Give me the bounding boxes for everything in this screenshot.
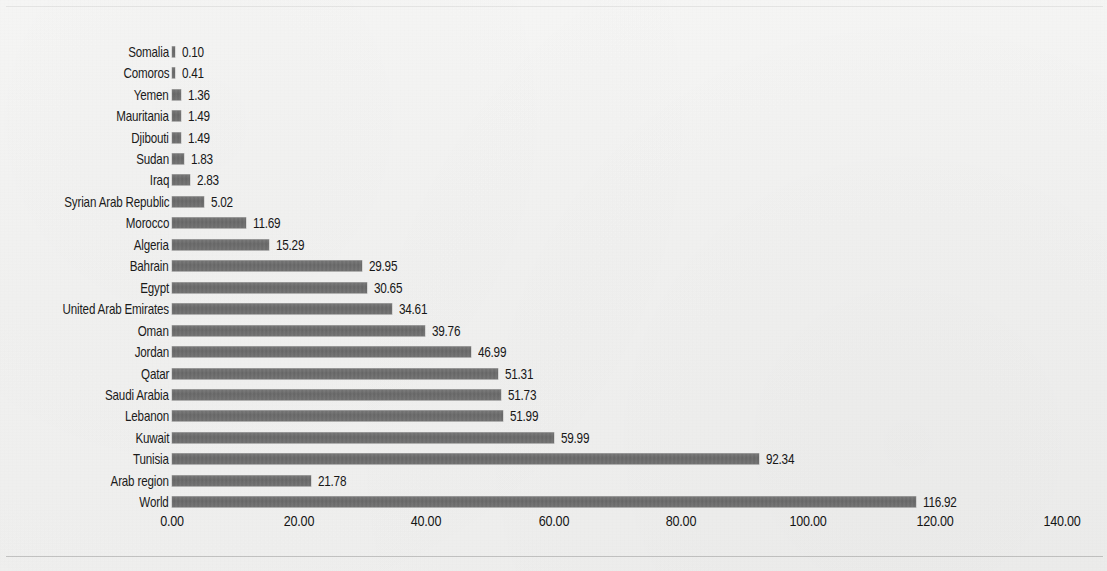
bar xyxy=(172,368,498,379)
bar xyxy=(172,432,554,443)
category-label: Oman xyxy=(130,323,169,338)
category-label: Egypt xyxy=(133,280,169,295)
bar-value-text: 1.49 xyxy=(188,131,210,145)
category-label-text: Jordan xyxy=(134,345,169,360)
bar-value-label: 29.95 xyxy=(369,259,403,273)
category-label-text: Mauritania xyxy=(116,109,169,124)
x-axis-tick-label: 60.00 xyxy=(536,512,572,529)
category-label-text: Kuwait xyxy=(135,430,169,445)
category-label-text: Qatar xyxy=(141,366,169,381)
category-label-text: Algeria xyxy=(134,237,169,252)
bar-value-label: 30.65 xyxy=(374,281,408,295)
category-label: Kuwait xyxy=(127,430,169,445)
bar-row: World116.92 xyxy=(0,491,1107,513)
bar xyxy=(172,411,503,422)
bar-value-label: 2.83 xyxy=(197,173,223,187)
bar-value-text: 34.61 xyxy=(399,302,427,316)
category-label-text: Arab region xyxy=(111,473,169,488)
bar-value-text: 92.34 xyxy=(766,452,794,466)
category-label-text: Morocco xyxy=(126,216,169,231)
bar-row: Yemen1.36 xyxy=(0,84,1107,106)
bar xyxy=(172,497,916,508)
bar-row: Bahrain29.95 xyxy=(0,256,1107,278)
bar-row: Iraq2.83 xyxy=(0,170,1107,192)
category-label-text: World xyxy=(140,495,169,510)
category-label: Saudi Arabia xyxy=(89,387,169,402)
bar xyxy=(172,218,246,229)
x-axis-tick-label: 20.00 xyxy=(281,512,317,529)
category-label: Syrian Arab Republic xyxy=(38,194,169,209)
bar xyxy=(172,111,181,122)
bar-value-text: 1.36 xyxy=(188,88,210,102)
category-label-text: Somalia xyxy=(128,44,169,59)
bar-value-label: 21.78 xyxy=(318,474,352,488)
x-axis-tick-text: 40.00 xyxy=(411,512,441,529)
bar-value-text: 30.65 xyxy=(374,281,402,295)
bar xyxy=(172,132,181,143)
category-label: Tunisia xyxy=(124,452,169,467)
bar-row: Kuwait59.99 xyxy=(0,427,1107,449)
bar-value-text: 5.02 xyxy=(211,195,233,209)
category-label-text: Syrian Arab Republic xyxy=(64,194,169,209)
x-axis-tick-text: 0.00 xyxy=(160,512,184,529)
category-label: Morocco xyxy=(115,216,169,231)
bar xyxy=(172,475,311,486)
bar-row: Mauritania1.49 xyxy=(0,105,1107,127)
bar-value-text: 21.78 xyxy=(318,474,346,488)
x-axis-tick-label: 140.00 xyxy=(1040,512,1084,529)
bar xyxy=(172,454,759,465)
category-label-text: Djibouti xyxy=(132,130,169,145)
bar-value-label: 92.34 xyxy=(766,452,800,466)
x-axis-tick-text: 100.00 xyxy=(789,512,826,529)
bar-value-text: 15.29 xyxy=(276,238,304,252)
bar-value-label: 15.29 xyxy=(276,238,310,252)
bar-value-text: 59.99 xyxy=(561,431,589,445)
bar-row: Djibouti1.49 xyxy=(0,127,1107,149)
bar-row: Egypt30.65 xyxy=(0,277,1107,299)
bar-row: United Arab Emirates34.61 xyxy=(0,298,1107,320)
category-label: Yemen xyxy=(125,87,169,102)
bar xyxy=(172,175,190,186)
category-label-text: Bahrain xyxy=(130,259,169,274)
bar xyxy=(172,154,184,165)
category-label: Qatar xyxy=(134,366,169,381)
bar-value-label: 1.36 xyxy=(188,88,214,102)
bar-value-label: 1.49 xyxy=(188,109,214,123)
x-axis-tick-label: 0.00 xyxy=(158,512,186,529)
bar-row: Qatar51.31 xyxy=(0,363,1107,385)
bar-value-text: 11.69 xyxy=(253,216,280,230)
bar-value-text: 29.95 xyxy=(369,259,397,273)
bar-value-label: 0.41 xyxy=(182,66,208,80)
category-label-text: Comoros xyxy=(123,66,169,81)
category-label-text: Egypt xyxy=(140,280,169,295)
category-label: Djibouti xyxy=(122,130,169,145)
category-label-text: United Arab Emirates xyxy=(63,302,169,317)
bar xyxy=(172,282,367,293)
bar xyxy=(172,261,362,272)
bar-row: Morocco11.69 xyxy=(0,213,1107,235)
x-axis-tick-text: 80.00 xyxy=(666,512,696,529)
bar-chart-figure: Somalia0.10Comoros0.41Yemen1.36Mauritani… xyxy=(0,0,1107,571)
bar-value-text: 51.73 xyxy=(508,388,536,402)
bar xyxy=(172,304,392,315)
x-axis-tick-text: 60.00 xyxy=(538,512,568,529)
bar-row: Comoros0.41 xyxy=(0,62,1107,84)
bar-value-label: 59.99 xyxy=(561,431,595,445)
bar-value-text: 2.83 xyxy=(197,173,219,187)
bar-row: Syrian Arab Republic5.02 xyxy=(0,191,1107,213)
bar-value-text: 51.31 xyxy=(505,367,533,381)
category-label: Bahrain xyxy=(120,259,169,274)
bar-value-text: 1.83 xyxy=(191,152,213,166)
category-label: United Arab Emirates xyxy=(36,302,169,317)
category-label: Iraq xyxy=(145,173,169,188)
bar xyxy=(172,239,269,250)
bar-row: Lebanon51.99 xyxy=(0,406,1107,428)
category-label: Jordan xyxy=(126,345,169,360)
bar-value-label: 116.92 xyxy=(923,495,963,509)
bar xyxy=(172,89,181,100)
bar-value-text: 46.99 xyxy=(478,345,506,359)
bar-row: Sudan1.83 xyxy=(0,148,1107,170)
x-axis-tick-text: 120.00 xyxy=(917,512,954,529)
category-label: Arab region xyxy=(96,473,169,488)
category-label: Comoros xyxy=(112,66,169,81)
